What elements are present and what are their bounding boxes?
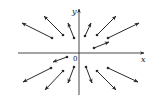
y-axis-label: y: [71, 7, 77, 16]
arrow-line: [97, 71, 116, 90]
vector-arrow: [84, 23, 91, 37]
arrow-start-dot: [85, 66, 88, 69]
arrow-line: [85, 23, 91, 36]
arrow-line: [108, 23, 139, 38]
vector-field-diagram: y x 0: [0, 0, 151, 101]
vector-arrow: [107, 23, 139, 39]
arrow-line: [94, 42, 109, 48]
arrow-start-dot: [51, 37, 54, 40]
arrow-line: [97, 16, 116, 35]
arrow-line: [45, 71, 63, 90]
vector-arrow: [93, 42, 109, 49]
vector-arrow: [22, 23, 53, 39]
arrow-start-dot: [73, 37, 76, 40]
vector-arrow: [96, 70, 116, 90]
arrow-line: [86, 67, 92, 83]
arrow-start-dot: [66, 56, 69, 59]
x-axis-label: x: [141, 55, 146, 64]
arrow-start-dot: [96, 70, 99, 73]
arrow-start-dot: [50, 67, 53, 70]
arrow-start-dot: [96, 34, 99, 37]
arrow-line: [22, 23, 52, 38]
arrow-line: [53, 57, 67, 62]
arrow-line: [108, 68, 138, 82]
vector-arrow: [85, 66, 92, 83]
vector-arrow: [53, 56, 68, 62]
vector-arrow: [96, 16, 116, 36]
arrow-start-dot: [73, 66, 76, 69]
arrow-start-dot: [107, 67, 110, 70]
vector-arrow: [107, 67, 138, 82]
arrow-start-dot: [107, 37, 110, 40]
vector-arrow: [23, 67, 52, 82]
vector-arrow: [68, 66, 75, 83]
vector-arrow: [44, 16, 64, 36]
origin-label: 0: [73, 55, 77, 63]
arrow-line: [68, 23, 74, 38]
vector-arrow: [68, 23, 75, 39]
arrow-start-dot: [93, 47, 96, 50]
arrow-start-dot: [84, 35, 87, 38]
axes: [18, 9, 144, 95]
vector-arrow: [45, 70, 64, 90]
arrow-line: [44, 16, 63, 35]
arrow-line: [23, 68, 51, 82]
arrow-line: [68, 67, 74, 83]
arrow-start-dot: [62, 34, 65, 37]
arrow-start-dot: [62, 70, 65, 73]
